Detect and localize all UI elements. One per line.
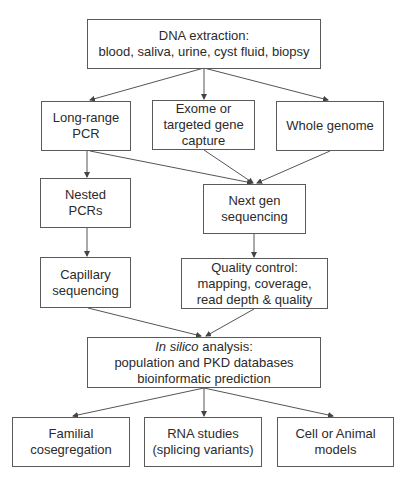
node-dna-extraction: DNA extraction: blood, saliva, urine, cy… — [87, 19, 321, 69]
node-in-silico-analysis: In silico analysis: population and PKD d… — [87, 337, 321, 388]
node-text: In silico analysis: — [155, 339, 253, 355]
node-text: blood, saliva, urine, cyst fluid, biopsy — [99, 44, 310, 60]
node-exome-capture: Exome or targeted gene capture — [152, 100, 255, 150]
node-text: PCRs — [69, 203, 103, 219]
node-capillary-sequencing: Capillary sequencing — [40, 257, 131, 308]
node-text: targeted gene — [163, 117, 243, 133]
node-text: Quality control: — [211, 260, 298, 276]
node-text: read depth & quality — [197, 292, 313, 308]
node-text: models — [315, 442, 357, 458]
node-text: sequencing — [221, 209, 288, 225]
node-text: cosegregation — [30, 442, 112, 458]
node-text: Exome or — [176, 101, 232, 117]
node-next-gen-sequencing: Next gen sequencing — [203, 184, 306, 234]
connector-arrows — [0, 0, 412, 487]
node-text-rest: analysis: — [199, 339, 253, 354]
node-long-range-pcr: Long-range PCR — [41, 101, 131, 151]
node-text: (splicing variants) — [152, 442, 253, 458]
node-text: capture — [182, 133, 225, 149]
node-rna-studies: RNA studies (splicing variants) — [144, 417, 262, 467]
node-text: mapping, coverage, — [197, 276, 311, 292]
node-familial-cosegregation: Familial cosegregation — [12, 417, 130, 467]
node-text: Long-range — [53, 110, 120, 126]
node-text: DNA extraction: — [159, 28, 249, 44]
node-text: bioinformatic prediction — [137, 371, 271, 387]
node-text: Cell or Animal — [295, 426, 375, 442]
node-text: population and PKD databases — [114, 355, 293, 371]
node-cell-animal-models: Cell or Animal models — [277, 417, 394, 467]
node-text: Familial — [49, 426, 94, 442]
node-whole-genome: Whole genome — [276, 101, 384, 151]
node-text: Whole genome — [286, 118, 373, 134]
node-text: Next gen — [228, 193, 280, 209]
node-text: PCR — [72, 126, 99, 142]
node-nested-pcrs: Nested PCRs — [40, 178, 131, 228]
node-text: sequencing — [52, 283, 119, 299]
italic-term: In silico — [155, 339, 198, 354]
node-text: Capillary — [60, 267, 111, 283]
node-text: Nested — [65, 187, 106, 203]
node-quality-control: Quality control: mapping, coverage, read… — [181, 258, 328, 309]
node-text: RNA studies — [167, 426, 239, 442]
